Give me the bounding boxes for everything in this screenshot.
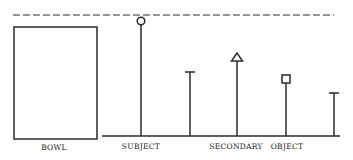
label-object: OBJECT <box>271 142 304 151</box>
subject-marker <box>137 17 145 136</box>
t-bar-marker-1 <box>185 72 195 136</box>
circle-icon <box>137 17 145 25</box>
label-secondary: SECONDARY <box>209 142 263 151</box>
diagram-canvas: BOWL SUBJECT SECONDARY OBJECT <box>0 0 353 160</box>
t-bar-marker-2 <box>329 93 339 136</box>
label-subject: SUBJECT <box>122 142 160 151</box>
bowl-rectangle <box>14 27 97 139</box>
triangle-icon <box>232 53 243 61</box>
square-icon <box>282 75 290 83</box>
object-marker <box>282 75 290 136</box>
secondary-marker <box>232 53 243 136</box>
label-bowl: BOWL <box>41 143 67 152</box>
